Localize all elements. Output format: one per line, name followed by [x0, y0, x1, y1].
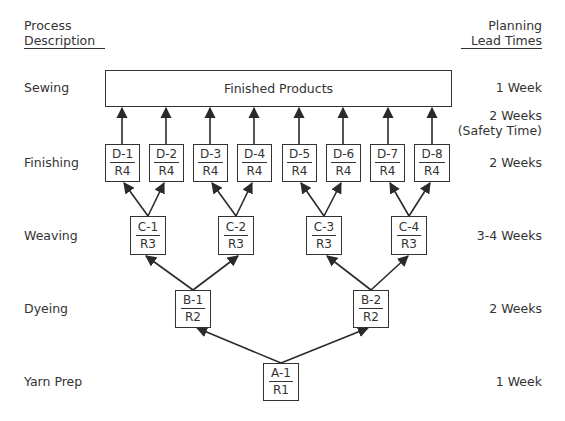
node-id: D-7 — [375, 148, 400, 163]
node-d-7: D-7 R4 — [370, 144, 405, 182]
node-id: D-5 — [287, 148, 312, 163]
flow-arrows — [0, 0, 565, 421]
node-b-1: B-1 R2 — [175, 290, 211, 328]
node-a-1: A-1 R1 — [263, 363, 299, 401]
node-resource: R4 — [380, 163, 396, 178]
node-resource: R4 — [292, 163, 308, 178]
node-id: B-1 — [181, 294, 205, 309]
node-c-3: C-3 R3 — [306, 216, 342, 255]
node-resource: R4 — [336, 163, 352, 178]
node-id: C-1 — [136, 221, 160, 236]
node-b-2: B-2 R2 — [353, 290, 389, 328]
node-id: D-4 — [242, 148, 267, 163]
node-resource: R4 — [203, 163, 219, 178]
finished-products-box: Finished Products — [105, 70, 452, 107]
node-d-6: D-6 R4 — [326, 144, 361, 182]
node-resource: R2 — [185, 309, 201, 324]
node-id: A-1 — [269, 367, 293, 382]
node-resource: R3 — [228, 236, 244, 251]
node-resource: R1 — [273, 382, 289, 397]
node-resource: R4 — [115, 163, 131, 178]
node-c-1: C-1 R3 — [130, 216, 166, 255]
node-d-5: D-5 R4 — [282, 144, 317, 182]
node-resource: R4 — [424, 163, 440, 178]
node-resource: R2 — [363, 309, 379, 324]
node-id: C-4 — [397, 221, 421, 236]
node-c-4: C-4 R3 — [391, 216, 427, 255]
node-resource: R4 — [247, 163, 263, 178]
node-id: D-2 — [154, 148, 179, 163]
node-c-2: C-2 R3 — [218, 216, 254, 255]
node-resource: R3 — [140, 236, 156, 251]
node-d-1: D-1 R4 — [105, 144, 140, 182]
node-resource: R3 — [316, 236, 332, 251]
node-id: C-3 — [312, 221, 336, 236]
node-resource: R4 — [159, 163, 175, 178]
node-d-3: D-3 R4 — [193, 144, 228, 182]
node-d-4: D-4 R4 — [237, 144, 272, 182]
node-id: D-3 — [198, 148, 223, 163]
node-id: D-6 — [331, 148, 356, 163]
node-id: D-8 — [419, 148, 444, 163]
node-id: B-2 — [359, 294, 383, 309]
node-id: C-2 — [224, 221, 248, 236]
node-d-2: D-2 R4 — [149, 144, 184, 182]
node-resource: R3 — [401, 236, 417, 251]
node-d-8: D-8 R4 — [414, 144, 450, 182]
node-id: D-1 — [110, 148, 135, 163]
